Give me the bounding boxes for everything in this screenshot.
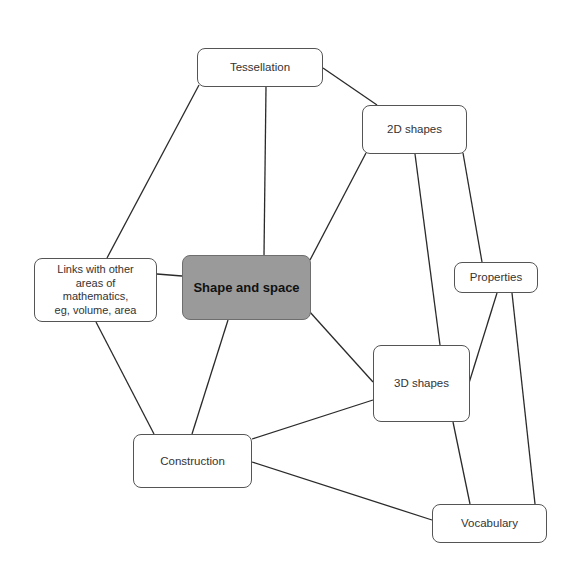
edge-3d-shapes-vocabulary <box>453 422 470 504</box>
node-label: Properties <box>470 270 522 285</box>
node-3d-shapes: 3D shapes <box>373 345 470 422</box>
edge-2d-shapes-center <box>310 153 366 260</box>
node-properties: Properties <box>454 262 538 293</box>
node-label: Tessellation <box>230 60 290 75</box>
central-node-label: Shape and space <box>193 280 299 295</box>
edge-tessellation-center <box>264 87 266 255</box>
node-label: Vocabulary <box>461 516 518 531</box>
edge-2d-shapes-3d-shapes <box>415 154 440 345</box>
edge-center-3d-shapes <box>309 311 373 382</box>
edge-construction-vocabulary <box>252 462 432 520</box>
edge-construction-3d-shapes <box>252 400 373 439</box>
edge-2d-shapes-properties <box>463 153 482 262</box>
edge-links-construction <box>96 322 154 434</box>
node-label: Links with other areas of mathematics, e… <box>55 263 137 317</box>
edge-center-construction <box>192 320 228 434</box>
edge-links-center <box>157 274 182 276</box>
node-vocabulary: Vocabulary <box>432 504 547 543</box>
edge-tessellation-2d-shapes <box>323 68 377 105</box>
node-2d-shapes: 2D shapes <box>362 105 467 154</box>
node-label: Construction <box>160 454 225 469</box>
node-construction: Construction <box>133 434 252 488</box>
node-tessellation: Tessellation <box>197 48 323 87</box>
node-links-with-other-areas: Links with other areas of mathematics, e… <box>34 258 157 322</box>
node-label: 2D shapes <box>387 122 442 137</box>
node-shape-and-space: Shape and space <box>182 255 311 320</box>
edge-properties-vocabulary <box>512 293 535 504</box>
mind-map-diagram: Tessellation 2D shapes Links with other … <box>0 0 577 581</box>
node-label: 3D shapes <box>394 376 449 391</box>
edge-tessellation-links <box>107 85 199 258</box>
edge-properties-3d-shapes <box>469 293 497 383</box>
